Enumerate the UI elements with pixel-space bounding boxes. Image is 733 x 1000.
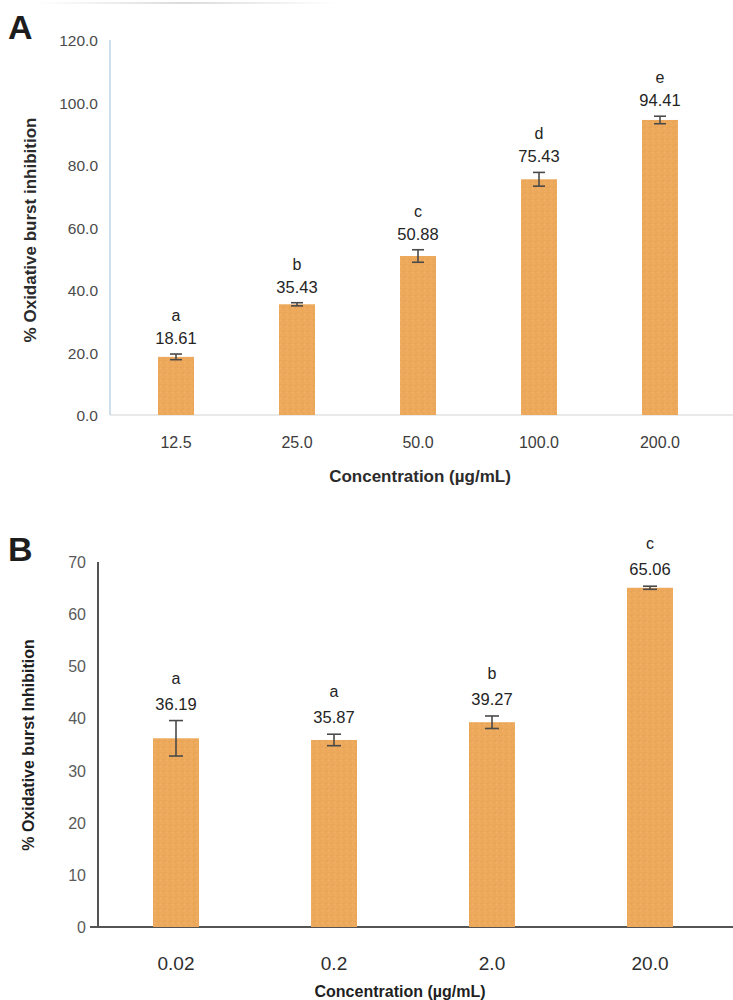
bars-group-a: 18.61a12.535.43b25.050.88c50.075.43d100.… <box>155 69 680 451</box>
x-category-label: 0.02 <box>158 953 195 974</box>
y-tick-label: 80.0 <box>68 157 99 174</box>
bar-value-label: 50.88 <box>397 225 438 243</box>
bar-value-label: 35.43 <box>276 278 317 296</box>
figure-container: A 0.020.040.060.080.0100.0120.018.61a12.… <box>0 0 733 1000</box>
bar-value-label: 18.61 <box>155 329 196 347</box>
panel-b-chart: 01020304050607036.19a0.0235.87a0.239.27b… <box>0 500 733 1000</box>
error-bar <box>643 586 657 589</box>
x-category-label: 12.5 <box>160 434 191 451</box>
y-tick-label: 10 <box>68 867 86 884</box>
x-category-label: 100.0 <box>519 434 559 451</box>
significance-letter: a <box>172 307 181 324</box>
bars-group-b: 36.19a0.0235.87a0.239.27b2.065.06c20.0 <box>153 535 673 974</box>
x-category-label: 2.0 <box>479 953 505 974</box>
bar[interactable] <box>158 357 194 415</box>
x-category-label: 200.0 <box>640 434 680 451</box>
significance-letter: c <box>646 535 654 552</box>
x-category-label: 0.2 <box>321 953 347 974</box>
y-tick-label: 20 <box>68 815 86 832</box>
y-tick-label: 0 <box>77 919 86 936</box>
bar-value-label: 36.19 <box>155 695 196 713</box>
significance-letter: d <box>535 125 544 142</box>
bar-value-label: 35.87 <box>313 708 354 726</box>
y-axis-ticks-b: 010203040506070 <box>68 554 86 936</box>
bar-value-label: 65.06 <box>629 560 670 578</box>
y-tick-label: 40 <box>68 710 86 727</box>
bar[interactable] <box>521 179 557 415</box>
y-tick-label: 30 <box>68 763 86 780</box>
x-category-label: 20.0 <box>632 953 669 974</box>
bar[interactable] <box>311 740 357 927</box>
y-tick-label: 60 <box>68 606 86 623</box>
panel-a-letter: A <box>8 10 33 44</box>
y-tick-label: 20.0 <box>68 345 99 362</box>
significance-letter: b <box>488 665 497 682</box>
panel-b: B 01020304050607036.19a0.0235.87a0.239.2… <box>0 500 733 1000</box>
x-axis-title: Concentration (µg/mL) <box>315 983 486 1000</box>
bar[interactable] <box>642 120 678 415</box>
significance-letter: b <box>293 256 302 273</box>
bar[interactable] <box>279 304 315 415</box>
bar[interactable] <box>469 722 515 927</box>
y-axis-ticks-a: 0.020.040.060.080.0100.0120.0 <box>59 32 98 424</box>
significance-letter: e <box>656 69 665 86</box>
significance-letter: c <box>414 203 422 220</box>
bar[interactable] <box>627 588 673 927</box>
x-category-label: 50.0 <box>402 434 433 451</box>
x-category-label: 25.0 <box>281 434 312 451</box>
significance-letter: a <box>172 670 181 687</box>
y-tick-label: 0.0 <box>76 407 98 424</box>
x-axis-title: Concentration (µg/mL) <box>329 467 511 486</box>
y-tick-label: 120.0 <box>59 32 98 49</box>
significance-letter: a <box>330 683 339 700</box>
y-axis-title: % Oxidative burst inhibition <box>21 118 40 343</box>
panel-b-letter: B <box>8 532 33 566</box>
bar-value-label: 75.43 <box>518 147 559 165</box>
panel-a-chart: 0.020.040.060.080.0100.0120.018.61a12.53… <box>0 0 733 500</box>
bar[interactable] <box>400 256 436 415</box>
y-tick-label: 50 <box>68 658 86 675</box>
bar[interactable] <box>153 738 199 927</box>
y-tick-label: 40.0 <box>68 282 99 299</box>
y-tick-label: 70 <box>68 554 86 571</box>
bar-value-label: 94.41 <box>639 91 680 109</box>
y-tick-label: 100.0 <box>59 95 98 112</box>
bar-value-label: 39.27 <box>471 690 512 708</box>
y-axis-title: % Oxidative burst Inhibition <box>20 639 37 851</box>
y-tick-label: 60.0 <box>68 220 99 237</box>
panel-a: A 0.020.040.060.080.0100.0120.018.61a12.… <box>0 0 733 500</box>
